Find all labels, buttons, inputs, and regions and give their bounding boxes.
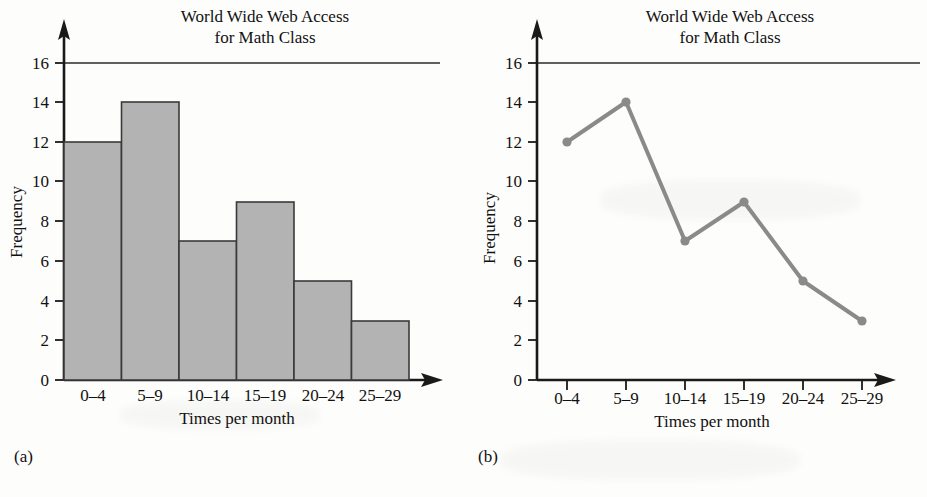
figure-container: World Wide Web Access for Math Class (0, 0, 927, 497)
x-tick-label: 20–24 (302, 386, 345, 405)
chart-b-title-line2: for Math Class (679, 28, 780, 47)
data-point-0-4 (562, 137, 571, 146)
y-tick-label: 10 (32, 172, 49, 191)
x-tick-label: 25–29 (841, 389, 884, 408)
y-tick-label: 0 (514, 371, 523, 390)
x-tick-label: 20–24 (782, 389, 825, 408)
data-point-20-24 (798, 276, 807, 285)
data-point-5-9 (621, 97, 630, 106)
bar-10-14 (179, 241, 237, 380)
chart-panel-a: World Wide Web Access for Math Class (0, 0, 464, 497)
chart-a-y-axis-label: Frequency (7, 186, 26, 258)
bar-0-4 (64, 142, 122, 380)
x-tick-label: 15–19 (723, 389, 766, 408)
y-tick-label: 12 (32, 133, 49, 152)
x-tick-label: 10–14 (664, 389, 707, 408)
y-tick-label: 4 (41, 292, 50, 311)
y-tick-label: 6 (514, 252, 523, 271)
y-tick-label: 14 (32, 93, 50, 112)
x-tick-label: 5–9 (137, 386, 163, 405)
chart-a-x-axis-label: Times per month (179, 409, 295, 428)
y-tick-label: 6 (41, 252, 50, 271)
chart-b-title-line1: World Wide Web Access (646, 7, 814, 26)
frequency-polygon-line (567, 102, 862, 321)
histogram-svg: World Wide Web Access for Math Class (0, 0, 464, 497)
y-tick-label: 2 (41, 331, 50, 350)
data-point-10-14 (680, 236, 689, 245)
line-chart-svg: World Wide Web Access for Math Class (464, 0, 927, 497)
x-tick-label: 10–14 (187, 386, 230, 405)
bar-20-24 (294, 281, 352, 380)
y-tick-label: 8 (41, 212, 50, 231)
bar-15-19 (237, 202, 295, 380)
chart-a-title-line2: for Math Class (214, 28, 315, 47)
chart-b-y-axis-label: Frequency (480, 192, 499, 264)
bar-25-29 (352, 321, 410, 380)
x-tick-label: 5–9 (613, 389, 639, 408)
data-point-15-19 (739, 197, 748, 206)
y-tick-label: 12 (505, 133, 522, 152)
panel-tag-b: (b) (478, 447, 498, 466)
x-tick-label: 0–4 (554, 389, 580, 408)
x-tick-label: 0–4 (80, 386, 106, 405)
x-tick-label: 25–29 (359, 386, 402, 405)
y-tick-label: 4 (514, 292, 523, 311)
x-tick-label: 15–19 (244, 386, 287, 405)
chart-b-x-axis-label: Times per month (654, 412, 770, 431)
data-point-25-29 (857, 316, 866, 325)
chart-a-title-line1: World Wide Web Access (181, 7, 349, 26)
y-tick-label: 14 (505, 93, 523, 112)
y-tick-label: 2 (514, 331, 523, 350)
y-tick-label: 10 (505, 172, 522, 191)
y-axis-ticks (55, 63, 64, 380)
panel-tag-a: (a) (14, 447, 33, 466)
y-tick-label: 16 (505, 54, 522, 73)
bar-series (64, 102, 409, 380)
bar-5-9 (122, 102, 180, 380)
y-axis-ticks (528, 63, 537, 380)
y-tick-label: 16 (32, 54, 49, 73)
y-tick-label: 0 (41, 371, 50, 390)
chart-panel-b: World Wide Web Access for Math Class (464, 0, 927, 497)
y-tick-label: 8 (514, 212, 523, 231)
